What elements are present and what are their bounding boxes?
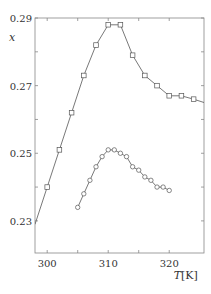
circle-marker xyxy=(149,178,153,182)
x-tick-label: 310 xyxy=(99,258,118,269)
circle-marker xyxy=(161,185,165,189)
circle-marker xyxy=(155,185,159,189)
square-marker xyxy=(106,22,111,27)
square-marker xyxy=(167,93,172,98)
square-marker xyxy=(130,53,135,58)
circle-marker xyxy=(124,154,128,158)
plot-border xyxy=(35,18,204,253)
x-axis-label-unit: [K] xyxy=(181,269,198,282)
circle-marker xyxy=(82,192,86,196)
circle-marker xyxy=(94,165,98,169)
circle-marker xyxy=(167,188,171,192)
circle-marker xyxy=(130,165,134,169)
circle-marker xyxy=(118,151,122,155)
square-marker xyxy=(94,43,99,48)
series-upper xyxy=(35,22,204,224)
series-line xyxy=(35,25,204,225)
square-marker xyxy=(179,93,184,98)
x-tick-label: 300 xyxy=(38,258,57,269)
circle-marker xyxy=(100,154,104,158)
circle-marker xyxy=(106,148,110,152)
series-lower xyxy=(76,148,172,210)
chart: 300310320 0.230.250.270.29 x T [K] xyxy=(0,0,211,294)
square-marker xyxy=(191,97,196,102)
circle-marker xyxy=(137,168,141,172)
data-series xyxy=(35,22,204,224)
square-marker xyxy=(143,73,148,78)
y-axis-label: x xyxy=(9,31,16,44)
square-marker xyxy=(82,73,87,78)
circle-marker xyxy=(143,175,147,179)
plot-frame xyxy=(35,18,204,253)
x-axis-label: T [K] xyxy=(174,269,198,282)
x-tick-label: 320 xyxy=(160,258,179,269)
y-tick-labels: 0.230.250.270.29 xyxy=(10,13,32,227)
square-marker xyxy=(57,148,62,153)
square-marker xyxy=(118,22,123,27)
circle-marker xyxy=(112,148,116,152)
y-tick-label: 0.25 xyxy=(10,148,32,159)
circle-marker xyxy=(76,205,80,209)
y-tick-label: 0.23 xyxy=(10,216,32,227)
square-marker xyxy=(45,185,50,190)
y-tick-label: 0.29 xyxy=(10,13,32,24)
circle-marker xyxy=(88,178,92,182)
y-tick-label: 0.27 xyxy=(10,81,32,92)
square-marker xyxy=(69,110,74,115)
square-marker xyxy=(155,83,160,88)
axis-ticks xyxy=(35,18,204,253)
x-tick-labels: 300310320 xyxy=(38,258,179,269)
